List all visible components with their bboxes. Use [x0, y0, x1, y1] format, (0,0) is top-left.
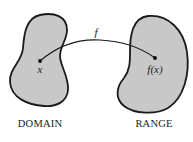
domain-caption: DOMAIN	[18, 118, 63, 129]
range-point-label: f(x)	[147, 63, 163, 76]
range-point-fx	[153, 56, 157, 60]
range-caption: RANGE	[135, 118, 172, 129]
function-mapping-diagram: f x f(x) DOMAIN RANGE	[0, 0, 193, 142]
function-label: f	[94, 26, 99, 38]
domain-point-label: x	[37, 63, 43, 75]
